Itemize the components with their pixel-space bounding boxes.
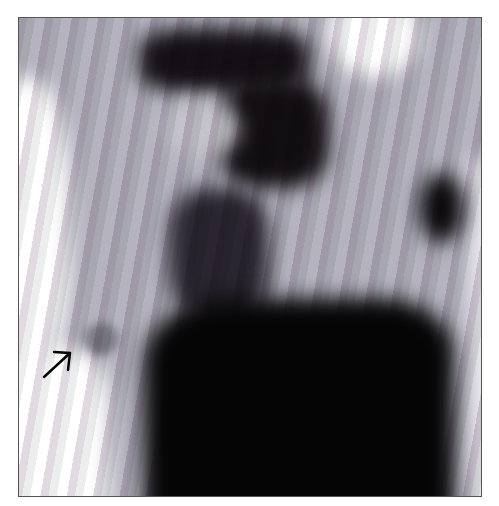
stripe-artifact-overlay [19, 18, 481, 496]
scan-image [18, 17, 482, 497]
arrow-annotation-icon [40, 345, 76, 381]
